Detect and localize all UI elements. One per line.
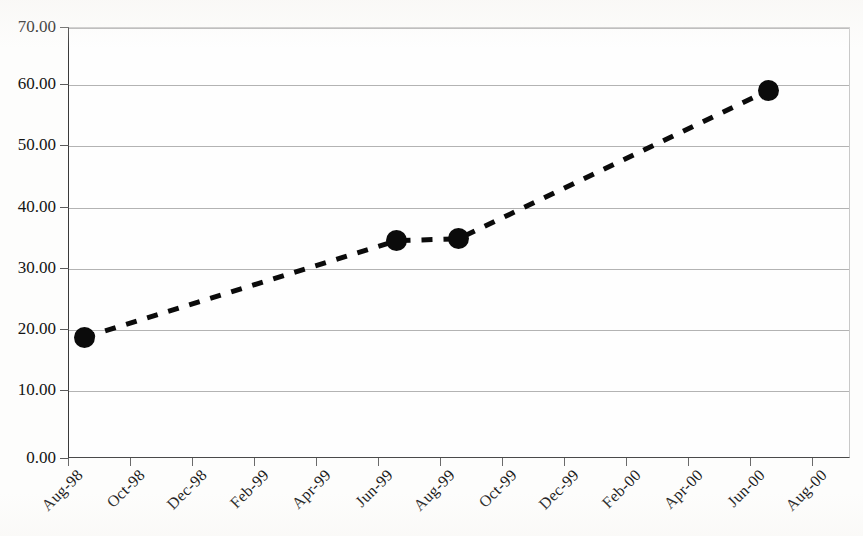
- x-tickmark-7: [502, 458, 503, 466]
- y-tickmark-20: [60, 329, 69, 330]
- x-tickmark-11: [750, 458, 751, 466]
- x-tickmark-1: [130, 458, 131, 466]
- x-tick-label-dec-98: Dec-98: [163, 466, 210, 513]
- y-tickmark-70: [60, 27, 69, 28]
- x-tickmark-8: [564, 458, 565, 466]
- x-tick-label-dec-99: Dec-99: [535, 466, 582, 513]
- y-tick-label-50: 50.00: [18, 135, 56, 155]
- y-tick-label-10: 10.00: [18, 380, 56, 400]
- data-point-marker: [758, 80, 779, 101]
- x-tick-label-feb-99: Feb-99: [227, 466, 273, 512]
- gridline-30: [69, 269, 849, 270]
- x-tick-label-aug-00: Aug-00: [782, 466, 831, 515]
- gridline-60: [69, 85, 849, 86]
- x-tickmark-0: [68, 458, 69, 466]
- x-tickmark-9: [626, 458, 627, 466]
- y-tick-label-0: 0.00: [26, 448, 56, 468]
- x-tick-label-jun-99: Jun-99: [352, 466, 397, 511]
- x-tick-label-feb-00: Feb-00: [599, 466, 645, 512]
- y-tick-label-40: 40.00: [18, 197, 56, 217]
- y-tick-label-70: 70.00: [18, 17, 56, 37]
- x-tick-label-oct-99: Oct-99: [475, 466, 520, 511]
- x-tickmark-2: [192, 458, 193, 466]
- y-tick-label-60: 60.00: [18, 74, 56, 94]
- x-tick-label-jun-00: Jun-00: [724, 466, 769, 511]
- x-tickmark-5: [378, 458, 379, 466]
- x-tickmark-6: [440, 458, 441, 466]
- x-tick-label-apr-00: Apr-00: [660, 466, 706, 512]
- y-tickmark-40: [60, 207, 69, 208]
- y-tickmark-60: [60, 84, 69, 85]
- y-tickmark-50: [60, 145, 69, 146]
- gridline-20: [69, 330, 849, 331]
- gridline-10: [69, 391, 849, 392]
- y-tickmark-30: [60, 268, 69, 269]
- gridline-50: [69, 146, 849, 147]
- x-tick-label-oct-98: Oct-98: [103, 466, 148, 511]
- gridline-40: [69, 208, 849, 209]
- x-tickmark-4: [316, 458, 317, 466]
- y-axis: 70.00 60.00 50.00 40.00 30.00 20.00 10.0…: [0, 0, 68, 536]
- chart-container: 70.00 60.00 50.00 40.00 30.00 20.00 10.0…: [0, 0, 863, 536]
- x-tick-label-apr-99: Apr-99: [288, 466, 334, 512]
- x-tickmark-12: [812, 458, 813, 466]
- data-point-marker: [74, 327, 95, 348]
- y-tick-label-30: 30.00: [18, 258, 56, 278]
- x-tickmark-3: [254, 458, 255, 466]
- x-tick-label-aug-99: Aug-99: [410, 466, 459, 515]
- x-tickmark-10: [688, 458, 689, 466]
- y-tick-label-20: 20.00: [18, 319, 56, 339]
- y-tickmark-10: [60, 390, 69, 391]
- gridline-70: [69, 28, 849, 29]
